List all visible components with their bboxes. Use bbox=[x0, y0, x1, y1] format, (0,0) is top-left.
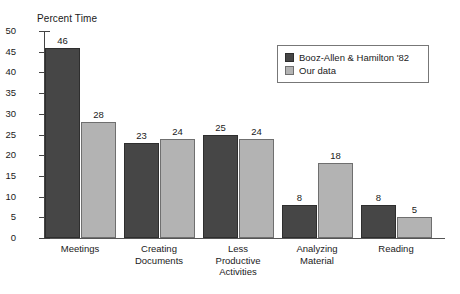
bar[interactable]: 25 bbox=[203, 135, 238, 239]
y-axis-tick: 10 bbox=[0, 197, 45, 198]
legend-swatch-icon bbox=[285, 66, 294, 75]
bar-value-label: 8 bbox=[376, 192, 381, 204]
y-axis-tick-mark bbox=[39, 238, 50, 239]
bar-value-label: 24 bbox=[172, 126, 183, 138]
y-axis-tick-label: 15 bbox=[5, 169, 16, 182]
bar[interactable]: 24 bbox=[239, 139, 274, 238]
y-axis-tick-label: 25 bbox=[5, 128, 16, 141]
bar-group: 2524 bbox=[203, 31, 274, 238]
y-axis-tick: 45 bbox=[0, 52, 45, 53]
y-axis-tick: 50 bbox=[0, 31, 45, 32]
y-axis-tick: 20 bbox=[0, 155, 45, 156]
x-axis-label-line: Material bbox=[262, 255, 372, 267]
legend-item-label: Booz-Allen & Hamilton '82 bbox=[299, 52, 409, 64]
bar[interactable]: 23 bbox=[124, 143, 159, 238]
legend: Booz-Allen & Hamilton '82 Our data bbox=[277, 45, 429, 83]
x-axis-label: Reading bbox=[341, 243, 451, 255]
y-axis-tick: 40 bbox=[0, 72, 45, 73]
y-axis-tick-label: 5 bbox=[11, 210, 16, 223]
y-axis-tick-label: 10 bbox=[5, 190, 16, 203]
legend-item[interactable]: Booz-Allen & Hamilton '82 bbox=[285, 51, 421, 64]
y-axis-tick: 0 bbox=[0, 238, 45, 239]
bar[interactable]: 8 bbox=[282, 205, 317, 238]
legend-item-label: Our data bbox=[299, 65, 336, 77]
y-axis-title: Percent Time bbox=[37, 13, 97, 24]
bar[interactable]: 5 bbox=[397, 217, 432, 238]
y-axis-tick: 25 bbox=[0, 135, 45, 136]
bar-group: 2324 bbox=[124, 31, 195, 238]
y-axis-tick: 5 bbox=[0, 217, 45, 218]
y-axis-tick-label: 50 bbox=[5, 24, 16, 37]
bar-value-label: 24 bbox=[251, 126, 262, 138]
y-axis-tick: 30 bbox=[0, 114, 45, 115]
y-axis-tick: 35 bbox=[0, 93, 45, 94]
y-axis-tick: 15 bbox=[0, 176, 45, 177]
y-axis-tick-label: 40 bbox=[5, 65, 16, 78]
legend-item[interactable]: Our data bbox=[285, 64, 421, 77]
bar-value-label: 46 bbox=[57, 35, 68, 47]
bar-value-label: 28 bbox=[93, 109, 104, 121]
y-axis-tick-label: 0 bbox=[11, 231, 16, 244]
x-axis-label-line: Activities bbox=[183, 266, 293, 278]
bar[interactable]: 8 bbox=[361, 205, 396, 238]
bar-value-label: 23 bbox=[136, 130, 147, 142]
bar[interactable]: 28 bbox=[81, 122, 116, 238]
y-axis-tick-label: 30 bbox=[5, 107, 16, 120]
bar-value-label: 18 bbox=[330, 150, 341, 162]
y-axis-tick-label: 35 bbox=[5, 86, 16, 99]
y-axis-tick-label: 45 bbox=[5, 45, 16, 58]
bar[interactable]: 46 bbox=[45, 48, 80, 238]
bar-value-label: 8 bbox=[297, 192, 302, 204]
bar-value-label: 5 bbox=[412, 204, 417, 216]
bar[interactable]: 24 bbox=[160, 139, 195, 238]
bar-group: 4628 bbox=[45, 31, 116, 238]
bar-chart: Percent Time 05101520253035404550 462823… bbox=[0, 0, 460, 294]
legend-swatch-icon bbox=[285, 53, 294, 62]
x-axis-label-line: Reading bbox=[341, 243, 451, 255]
x-axis-line bbox=[45, 238, 445, 239]
bar[interactable]: 18 bbox=[318, 163, 353, 238]
y-axis-tick-label: 20 bbox=[5, 148, 16, 161]
bar-value-label: 25 bbox=[215, 122, 226, 134]
